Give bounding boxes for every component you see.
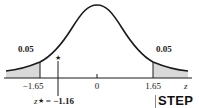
tick-label-pos: 1.65 (145, 81, 161, 91)
normal-curve-diagram: ★ 0.05 0.05 −1.65 0 1.65 z z★ = −1.16 (0, 0, 199, 108)
tick-label-zero: 0 (95, 81, 100, 91)
tick-label-neg: −1.65 (23, 81, 44, 91)
zstar-star-icon: ★ (55, 54, 61, 62)
step-divider (155, 95, 156, 108)
right-area-label: 0.05 (156, 44, 172, 54)
left-area-label: 0.05 (18, 44, 34, 54)
step-heading: STEP (158, 93, 193, 108)
normal-density-curve (6, 5, 188, 71)
zstar-value: = −1.16 (44, 96, 75, 106)
zstar-label: z★ = −1.16 (33, 96, 75, 106)
axis-variable-label: z (183, 81, 188, 91)
